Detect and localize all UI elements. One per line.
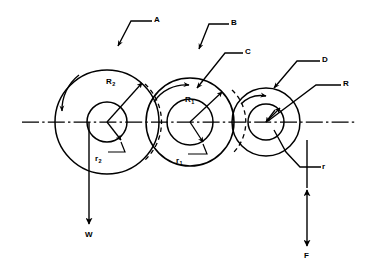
radius-label-r1-small-sub: 1 <box>180 160 183 166</box>
callout-label-a: A <box>154 16 160 24</box>
callout-label-c: C <box>245 48 251 56</box>
radius-label-r-small-right: r <box>322 163 325 171</box>
diagram-svg <box>0 0 373 267</box>
diagram-canvas: A B C D R r R2 r2 R1 r1 W F <box>0 0 373 267</box>
left-drum-inner-radius-leader <box>108 142 125 152</box>
radius-label-r2: R2 <box>106 78 115 86</box>
radius-label-r2-small-base: r <box>95 154 98 163</box>
radius-label-r1-sub: 1 <box>191 99 194 105</box>
radius-label-r1: R1 <box>185 96 194 104</box>
left-drum-inner-radius-line <box>107 122 121 140</box>
callout-label-d: D <box>322 56 328 64</box>
radius-label-r-right: R <box>343 80 349 88</box>
radius-label-r2-sub: 2 <box>112 81 115 87</box>
radius-label-r2-small-sub: 2 <box>99 158 102 164</box>
callout-leader-d <box>274 61 320 88</box>
callout-label-b: B <box>231 19 237 27</box>
radius-label-r1-small-base: r <box>176 156 179 165</box>
callout-leader-b <box>199 24 229 49</box>
middle-drum-inner-radius-line <box>190 122 203 142</box>
callout-leader-c <box>197 53 243 88</box>
force-label-f: F <box>304 252 309 260</box>
right-drum-rotation-arrow <box>241 96 266 104</box>
radius-label-r2-small: r2 <box>95 155 102 163</box>
middle-drum-outer-radius-line <box>190 92 222 122</box>
radius-label-r1-small: r1 <box>176 157 183 165</box>
callout-leader-a <box>118 21 152 46</box>
force-label-w: W <box>85 231 93 239</box>
force-vectors-group <box>89 122 307 246</box>
